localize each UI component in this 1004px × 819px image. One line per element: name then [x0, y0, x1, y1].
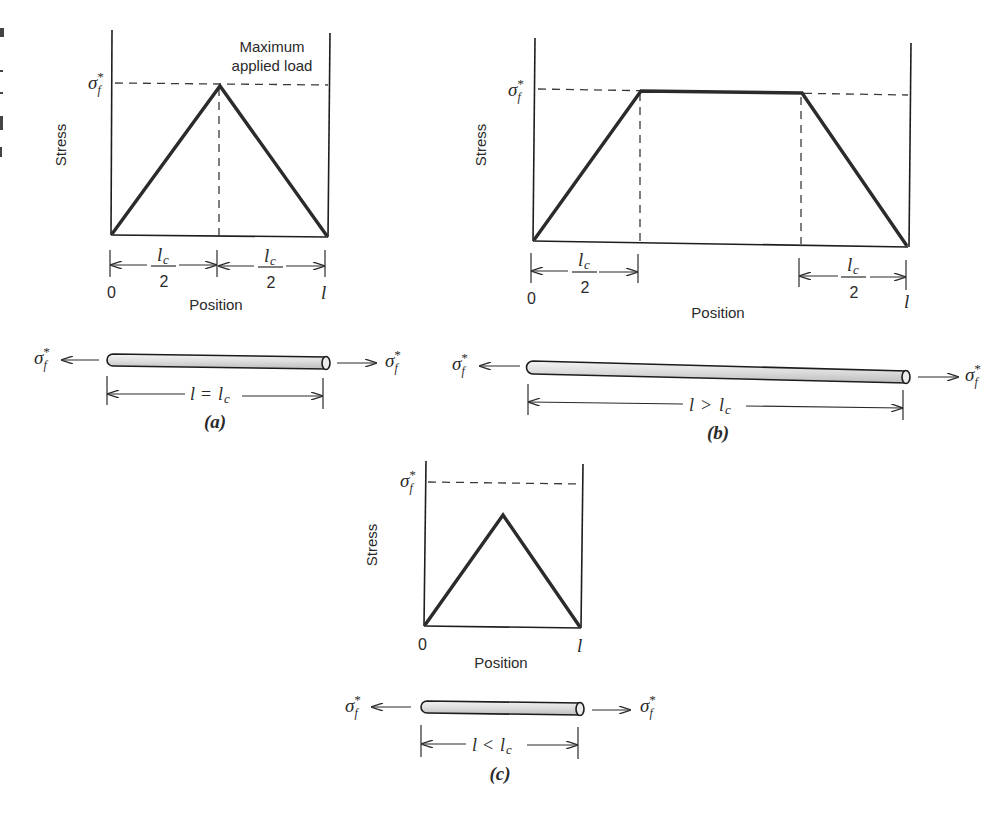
- y-axis: [533, 38, 535, 241]
- svg-text:<: <: [483, 735, 493, 755]
- svg-text:c: c: [725, 402, 731, 417]
- svg-text:2: 2: [850, 284, 859, 301]
- svg-text:l: l: [578, 249, 583, 270]
- annotation-line-2: applied load: [232, 57, 313, 74]
- fiber-stress-figure: Stress σf* Maximum applied load l c 2 l …: [0, 0, 1004, 819]
- svg-text:l: l: [500, 735, 505, 755]
- x-axis-label: Position: [691, 304, 744, 321]
- svg-text:c: c: [224, 391, 230, 406]
- sigma-f-star-label: σf*: [508, 76, 524, 104]
- svg-text:>: >: [701, 395, 711, 415]
- svg-text:c: c: [584, 257, 590, 272]
- svg-text:2: 2: [160, 273, 169, 290]
- right-boundary: [581, 464, 583, 628]
- svg-text:c: c: [506, 742, 512, 757]
- y-axis-label: Stress: [363, 524, 380, 567]
- force-right-label: σf*: [965, 361, 981, 389]
- rod-length-label: l > l c: [689, 395, 731, 417]
- sigma-f-star-label: σf*: [88, 69, 104, 97]
- right-boundary: [328, 33, 330, 237]
- svg-text:l: l: [157, 244, 162, 265]
- svg-text:c: c: [270, 253, 276, 268]
- panel-c-plot: Stress σf* 0 l Position: [363, 461, 583, 671]
- x-end-label: l: [904, 291, 909, 312]
- panel-caption: (a): [204, 411, 226, 433]
- force-right-label: σf*: [640, 692, 656, 720]
- stress-profile: [534, 91, 907, 246]
- x-start-label: 0: [418, 636, 427, 653]
- y-axis-label: Stress: [472, 124, 489, 167]
- svg-text:2: 2: [581, 279, 590, 296]
- sigma-f-star-label: σf*: [400, 467, 416, 495]
- x-end-label: l: [321, 282, 326, 303]
- svg-text:l: l: [847, 254, 852, 275]
- annotation-line-1: Maximum: [239, 38, 304, 55]
- force-left-label: σf*: [345, 692, 361, 720]
- svg-text:2: 2: [267, 274, 276, 291]
- panel-b-rod: σf* σf* l > l c (b): [452, 350, 981, 444]
- cropped-margin-marks: [0, 28, 4, 157]
- stress-profile: [425, 515, 580, 627]
- force-left-label: σf*: [452, 350, 468, 378]
- panel-b: Stress σf* l c 2 l c 2 0 l: [452, 38, 981, 444]
- dim-left-lc-over-2: l c 2: [572, 249, 597, 296]
- fiber-rod: [107, 354, 326, 369]
- svg-text:l: l: [689, 395, 694, 415]
- panel-a-rod: σf* σf* l = l c (a): [34, 344, 401, 433]
- x-axis-label: Position: [474, 654, 527, 671]
- panel-c-rod: σf* σf* l < l c (c): [345, 692, 656, 785]
- svg-text:l: l: [264, 245, 269, 266]
- x-start-label: 0: [527, 290, 536, 307]
- fiber-rod: [527, 361, 907, 383]
- panel-a-plot: Stress σf* Maximum applied load l c 2 l …: [52, 30, 330, 313]
- max-stress-line: [115, 83, 328, 85]
- right-boundary: [909, 43, 911, 247]
- svg-text:=: =: [201, 384, 211, 404]
- svg-text:l: l: [719, 395, 724, 415]
- dim-left-lc-over-2: l c 2: [151, 244, 176, 290]
- y-axis: [424, 461, 426, 626]
- svg-text:c: c: [163, 252, 169, 267]
- panel-a: Stress σf* Maximum applied load l c 2 l …: [34, 30, 401, 433]
- y-axis: [111, 30, 112, 235]
- svg-text:l: l: [472, 735, 477, 755]
- rod-length-label: l = l c: [190, 384, 230, 406]
- fiber-rod: [421, 701, 580, 715]
- force-left-label: σf*: [34, 344, 50, 372]
- x-end-label: l: [577, 635, 582, 656]
- dim-right-lc-over-2: l c 2: [841, 254, 866, 301]
- panel-b-plot: Stress σf* l c 2 l c 2 0 l: [472, 38, 911, 321]
- svg-text:c: c: [853, 262, 859, 277]
- force-right-label: σf*: [385, 347, 401, 375]
- panel-c: Stress σf* 0 l Position σf* σf* l < l c …: [345, 461, 656, 785]
- x-start-label: 0: [107, 284, 116, 301]
- y-axis-label: Stress: [52, 124, 69, 167]
- dim-right-lc-over-2: l c 2: [258, 245, 283, 291]
- svg-text:l: l: [190, 384, 195, 404]
- x-axis: [533, 241, 908, 247]
- rod-length-label: l < l c: [472, 735, 512, 757]
- max-stress-line: [428, 482, 581, 484]
- svg-text:l: l: [218, 384, 223, 404]
- panel-caption: (b): [707, 422, 729, 444]
- x-axis-label: Position: [189, 296, 242, 313]
- x-axis: [424, 626, 581, 628]
- panel-caption: (c): [489, 763, 510, 785]
